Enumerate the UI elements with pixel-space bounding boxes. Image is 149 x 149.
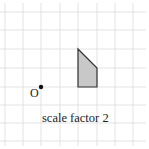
centre-label: O (30, 86, 39, 101)
centre-of-enlargement-point (39, 85, 43, 89)
trapezium-shape (78, 49, 97, 87)
grid-diagram (0, 0, 149, 149)
scale-factor-caption: scale factor 2 (42, 111, 109, 126)
